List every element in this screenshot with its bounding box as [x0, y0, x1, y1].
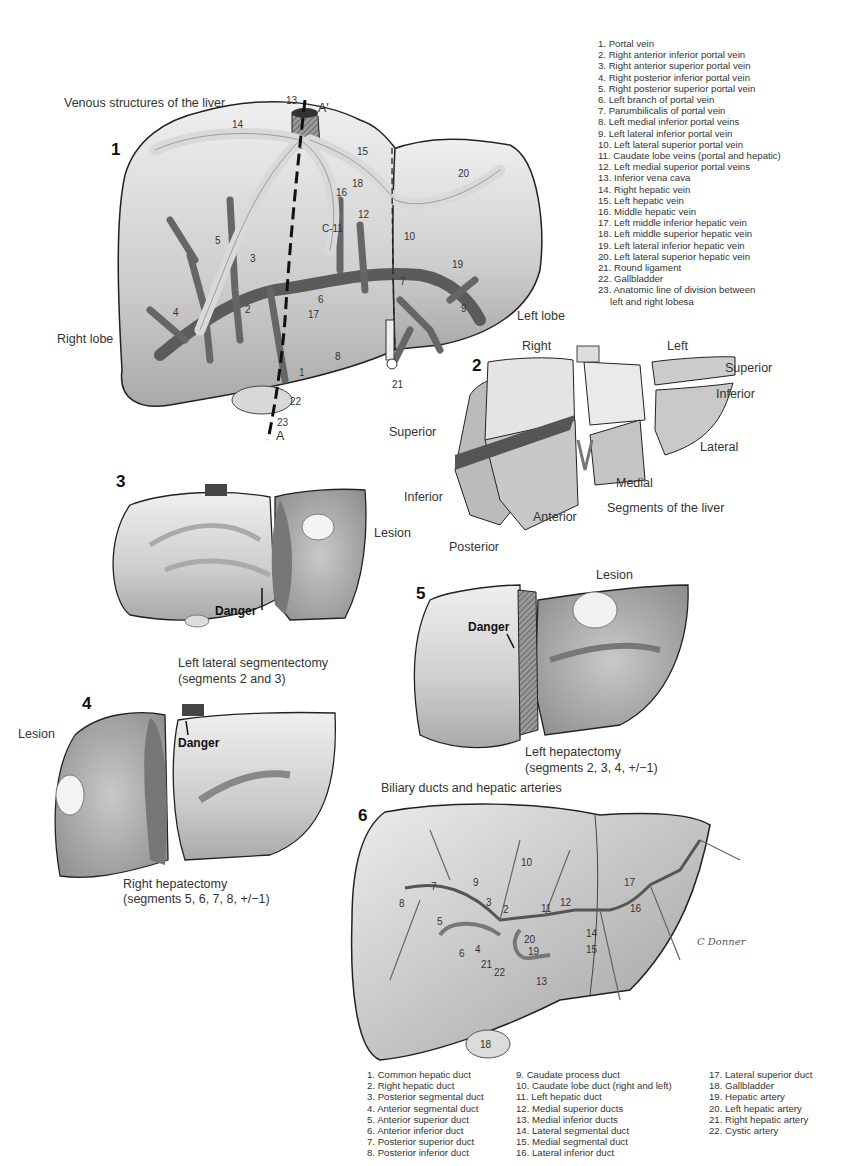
figure3-lesion-label: Lesion [374, 526, 411, 540]
figure6-legend-col3: 17. Lateral superior duct 18. Gallbladde… [709, 1069, 812, 1136]
legend-item: 6. Anterior inferior duct [367, 1125, 484, 1136]
legend-item: 22. Gallbladder [598, 273, 781, 284]
svg-text:12: 12 [358, 209, 370, 220]
legend-item: 21. Right hepatic artery [709, 1114, 812, 1125]
svg-text:14: 14 [586, 928, 598, 939]
legend-item: 14. Lateral segmental duct [516, 1125, 672, 1136]
svg-text:18: 18 [480, 1039, 492, 1050]
legend-item: 23. Anatomic line of division between [598, 284, 781, 295]
figure6-legend-col2: 9. Caudate process duct 10. Caudate lobe… [516, 1069, 672, 1159]
figure5-caption-line2: (segments 2, 3, 4, +/−1) [525, 761, 658, 775]
segment-label-left-superior: Superior [725, 361, 772, 375]
artist-signature: C Donner [697, 936, 745, 947]
legend-item: 8. Posterior inferior duct [367, 1147, 484, 1158]
legend-item: 8. Left medial inferior portal veins [598, 116, 781, 127]
svg-text:10: 10 [404, 231, 416, 242]
legend-item: 16. Lateral inferior duct [516, 1147, 672, 1158]
svg-text:2: 2 [503, 904, 509, 915]
figure4-lesion-label: Lesion [18, 727, 55, 741]
axis-label-a: A [276, 429, 284, 443]
legend-item: 5. Anterior superior duct [367, 1114, 484, 1125]
legend-item: 17. Left middle inferior hepatic vein [598, 217, 781, 228]
svg-text:3: 3 [250, 253, 256, 264]
figure2-title: Segments of the liver [607, 501, 724, 515]
segment-label-right-superior: Superior [389, 425, 436, 439]
svg-text:17: 17 [308, 309, 320, 320]
axis-label-a-prime: A′ [318, 101, 329, 115]
legend-item: 19. Left lateral inferior hepatic vein [598, 240, 781, 251]
right-lobe-label: Right lobe [57, 332, 113, 346]
figure4-danger-label: Danger [178, 736, 219, 750]
figure4-liver [55, 704, 335, 877]
legend-item: 19. Hepatic artery [709, 1091, 812, 1102]
legend-item: 9. Left lateral inferior portal vein [598, 128, 781, 139]
figure5-number: 5 [416, 584, 425, 604]
figure3-caption-line1: Left lateral segmentectomy [178, 656, 328, 670]
legend-item: 21. Round ligament [598, 262, 781, 273]
svg-text:12: 12 [560, 897, 572, 908]
legend-item: 2. Right hepatic duct [367, 1080, 484, 1091]
svg-text:18: 18 [352, 178, 364, 189]
figure5-liver [414, 585, 688, 748]
legend-item: 20. Left lateral superior hepatic vein [598, 251, 781, 262]
legend-item: 3. Posterior segmental duct [367, 1091, 484, 1102]
svg-text:9: 9 [461, 303, 467, 314]
figure6-title: Biliary ducts and hepatic arteries [381, 781, 562, 795]
legend-item: 12. Medial superior ducts [516, 1103, 672, 1114]
svg-text:2: 2 [245, 304, 251, 315]
figure3-caption-line2: (segments 2 and 3) [178, 672, 286, 686]
figure6-liver: 18 8 7 9 10 3 2 11 12 5 4 6 21 22 20 19 … [352, 804, 740, 1060]
legend-item: 14. Right hepatic vein [598, 184, 781, 195]
segment-label-left: Left [667, 339, 688, 353]
svg-text:5: 5 [215, 235, 221, 246]
legend-item: 15. Medial segmental duct [516, 1136, 672, 1147]
legend-item: 1. Common hepatic duct [367, 1069, 484, 1080]
svg-text:6: 6 [318, 294, 324, 305]
figure4-caption-line1: Right hepatectomy [123, 877, 227, 891]
svg-text:15: 15 [586, 944, 598, 955]
svg-text:20: 20 [458, 168, 470, 179]
legend-item: 15. Left hepatic vein [598, 195, 781, 206]
legend-item: 12. Left medial superior portal veins [598, 161, 781, 172]
legend-item: 4. Anterior segmental duct [367, 1103, 484, 1114]
figure5-lesion-label: Lesion [596, 568, 633, 582]
figure1-number: 1 [111, 140, 120, 160]
svg-text:5: 5 [437, 916, 443, 927]
legend-item: left and right lobesa [598, 296, 781, 307]
svg-text:16: 16 [630, 903, 642, 914]
legend-item: 20. Left hepatic artery [709, 1103, 812, 1114]
figure3-number: 3 [116, 472, 125, 492]
legend-item: 5. Right posterior superior portal vein [598, 83, 781, 94]
segment-label-posterior: Posterior [449, 540, 499, 554]
figure4-number: 4 [82, 694, 91, 714]
legend-item: 7. Posterior superior duct [367, 1136, 484, 1147]
svg-text:8: 8 [335, 351, 341, 362]
left-lobe-label: Left lobe [517, 309, 565, 323]
figure4-caption-line2: (segments 5, 6, 7, 8, +/−1) [123, 892, 270, 906]
legend-item: 10. Left lateral superior portal vein [598, 139, 781, 150]
svg-text:14: 14 [232, 119, 244, 130]
legend-item: 16. Middle hepatic vein [598, 206, 781, 217]
svg-text:7: 7 [400, 276, 406, 287]
figure5-caption-line1: Left hepatectomy [525, 745, 621, 759]
figure6-legend-col1: 1. Common hepatic duct 2. Right hepatic … [367, 1069, 484, 1159]
segment-label-left-inferior: Inferior [716, 387, 755, 401]
legend-item: 4. Right posterior inferior portal vein [598, 72, 781, 83]
svg-text:13: 13 [536, 976, 548, 987]
legend-item: 13. Medial inferior ducts [516, 1114, 672, 1125]
legend-item: 6. Left branch of portal vein [598, 94, 781, 105]
svg-text:9: 9 [473, 877, 479, 888]
svg-text:3: 3 [486, 897, 492, 908]
figure3-danger-label: Danger [215, 604, 256, 618]
svg-text:8: 8 [399, 898, 405, 909]
svg-text:22: 22 [494, 967, 506, 978]
svg-text:19: 19 [452, 259, 464, 270]
svg-text:4: 4 [173, 307, 179, 318]
legend-item: 11. Caudate lobe veins (portal and hepat… [598, 150, 781, 161]
svg-text:19: 19 [528, 946, 540, 957]
svg-text:23: 23 [277, 417, 289, 428]
segment-label-right: Right [522, 339, 551, 353]
legend-item: 2. Right anterior inferior portal vein [598, 49, 781, 60]
svg-text:21: 21 [392, 379, 404, 390]
legend-item: 17. Lateral superior duct [709, 1069, 812, 1080]
